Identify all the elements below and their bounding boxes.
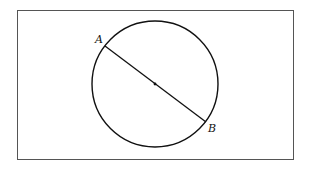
label-a: A [94,33,103,46]
diagram-canvas: A B [0,0,311,169]
label-b: B [207,122,216,135]
center-point [154,83,157,86]
